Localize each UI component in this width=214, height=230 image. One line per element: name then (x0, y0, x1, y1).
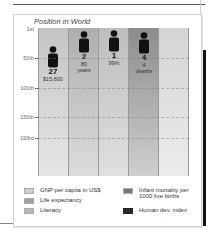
gridline-100th (38, 88, 189, 89)
figure-life-expectancy: 2 80 years (69, 31, 99, 73)
legend-label-human-dev-index: Human dev. index (139, 207, 187, 213)
value-gnp: $15,600 (38, 76, 68, 82)
legend-label-gnp: GNP per capita in US$ (40, 187, 101, 193)
legend-item-life-expectancy: Life expectancy (24, 197, 82, 204)
chart-card: Position in World 1st 50th 100th 150th 1… (13, 14, 202, 227)
column-human-dev-index (159, 28, 189, 176)
legend-label-life-expectancy: Life expectancy (40, 197, 82, 203)
y-label-1st: 1st (14, 26, 34, 32)
legend-item-literacy: Literacy (24, 207, 61, 214)
y-label-193rd: 193rd (14, 135, 34, 141)
plot-area: 27 $15,600 2 80 years 1 99% 4 4 deaths (38, 28, 189, 176)
figure-gnp: 27 $15,600 (38, 46, 68, 82)
legend-item-gnp: GNP per capita in US$ (24, 187, 101, 194)
top-rule (13, 4, 205, 5)
gridline-193rd (38, 138, 189, 139)
legend-swatch-literacy (24, 208, 34, 214)
legend-item-infant-mortality: Infant mortality per 1000 live births (123, 187, 189, 199)
legend-swatch-human-dev-index (123, 208, 133, 214)
person-icon (99, 30, 129, 52)
value-infant-mortality-unit: deaths (129, 68, 159, 74)
gridline-50th (38, 58, 189, 59)
y-label-50th: 50th (14, 55, 34, 61)
legend-swatch-gnp (24, 188, 34, 194)
person-icon (129, 32, 159, 54)
legend-swatch-infant-mortality (123, 188, 133, 194)
legend-swatch-life-expectancy (24, 198, 34, 204)
chart-title: Position in World (34, 17, 90, 26)
right-edge-bar (203, 50, 206, 226)
y-label-150th: 150th (14, 114, 34, 120)
rank-gnp: 27 (38, 68, 68, 76)
legend-label-infant-mortality-2: 1000 live births (139, 193, 189, 199)
figure-infant-mortality: 4 4 deaths (129, 32, 159, 74)
legend-label-literacy: Literacy (40, 207, 61, 213)
bottom-rule (0, 223, 14, 224)
value-literacy: 99% (99, 60, 129, 66)
gridline-150th (38, 117, 189, 118)
legend-item-human-dev-index: Human dev. index (123, 207, 187, 214)
person-icon (69, 31, 99, 53)
value-life-expectancy-unit: years (69, 67, 99, 73)
person-icon (38, 46, 68, 68)
rank-life-expectancy: 2 (69, 53, 99, 61)
figure-literacy: 1 99% (99, 30, 129, 66)
y-label-100th: 100th (14, 85, 34, 91)
